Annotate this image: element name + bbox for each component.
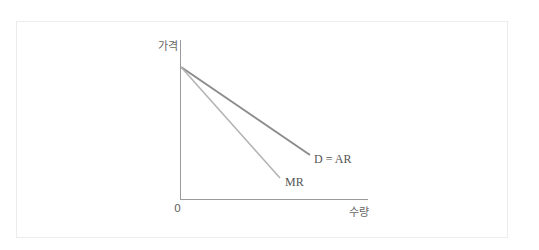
demand-ar-label: D = AR [314,153,351,165]
y-axis-label: 가격 [158,41,178,52]
x-axis-label: 수량 [349,207,369,218]
demand-ar-line [181,67,310,155]
chart-plot [0,0,539,250]
origin-label: 0 [174,203,181,214]
mr-line [181,67,280,178]
mr-label: MR [285,176,304,188]
